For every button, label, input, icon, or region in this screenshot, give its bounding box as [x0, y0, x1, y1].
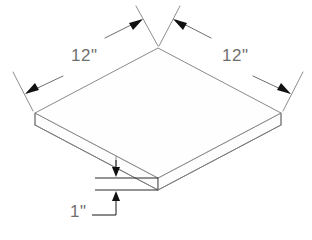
left-dimension-label: 12": [71, 46, 97, 65]
technical-drawing-canvas: 12" 12": [0, 0, 312, 240]
right-dimension-label: 12": [222, 46, 248, 65]
slab-solid: [35, 48, 281, 190]
isometric-slab-drawing: 12" 12": [0, 0, 312, 240]
left-extension-line-top: [136, 6, 158, 46]
left-dimension-arrow-lower: [25, 83, 39, 94]
left-dimension-arrow-upper: [129, 19, 143, 30]
thickness-dimension-label: 1": [70, 202, 87, 221]
slab-top-face: [35, 48, 281, 178]
right-dimension-arrow-upper: [173, 19, 187, 30]
thickness-arrow-down: [112, 191, 120, 201]
right-extension-line-top: [159, 6, 180, 46]
right-dimension-arrow-lower: [277, 83, 291, 94]
thickness-arrow-up: [112, 167, 120, 177]
